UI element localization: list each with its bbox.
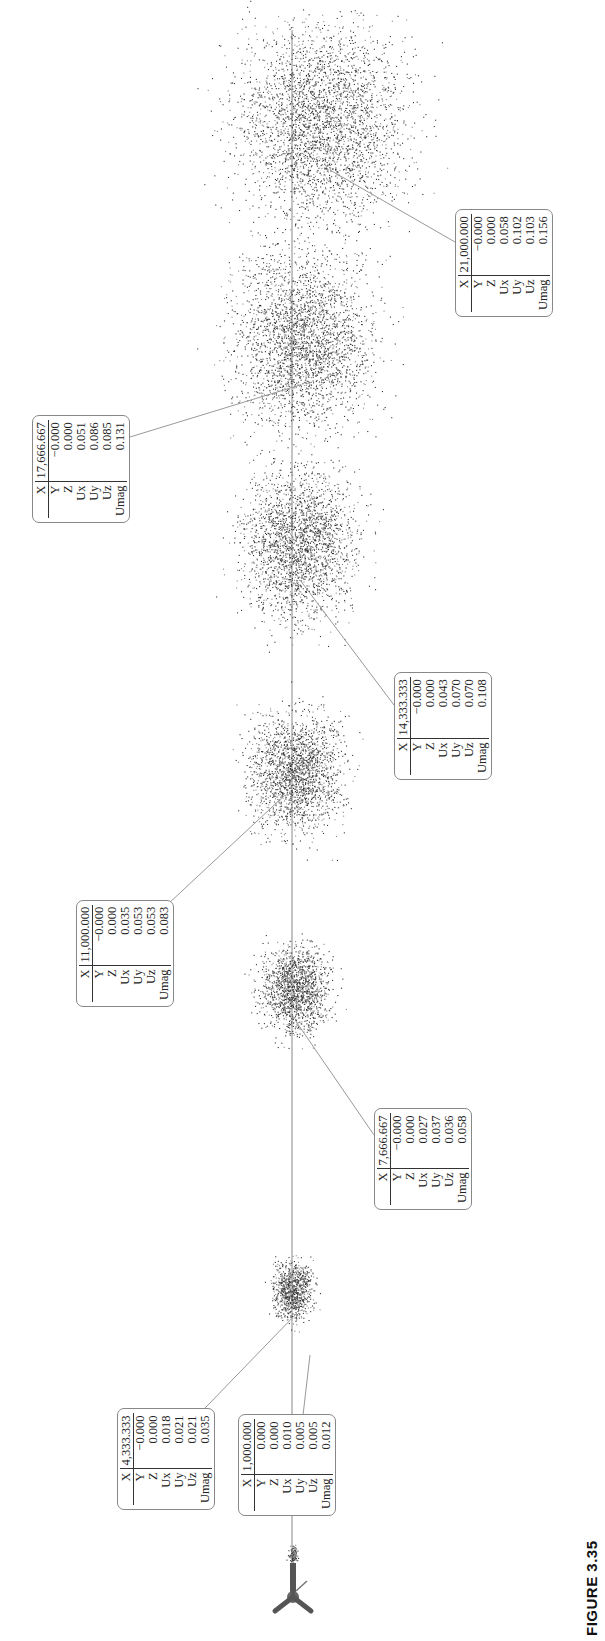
- probe-value: −0.000: [49, 420, 63, 482]
- probe-value: −0.000: [391, 1113, 405, 1169]
- particle-cloud: [265, 1255, 321, 1332]
- probe-label: Y: [255, 1475, 269, 1511]
- probe-value: −0.000: [93, 905, 107, 966]
- probe-label: X: [397, 739, 411, 775]
- probe-value: 17,666.667: [35, 420, 49, 482]
- probe-value: 0.058: [456, 1113, 469, 1169]
- probe-label: Umag: [114, 482, 127, 518]
- probe-label: Umag: [537, 276, 550, 312]
- particle-cloud: [233, 682, 364, 862]
- nozzle-icon: [275, 1563, 311, 1611]
- particle-clouds: [197, 0, 448, 1566]
- probe-value: 0.156: [537, 214, 550, 276]
- probe-label: Y: [134, 1469, 148, 1505]
- probe-value: −0.000: [411, 677, 425, 739]
- probe-value: 0.131: [114, 420, 127, 482]
- probe-label: Y: [49, 482, 63, 518]
- figure-caption: FIGURE 3.35: [583, 1540, 600, 1636]
- leader-line: [295, 1020, 374, 1135]
- probe-label: Y: [411, 739, 425, 775]
- probe-box: X21,000.000Y−0.000Z0.000Ux0.058Uy0.102Uz…: [455, 209, 553, 317]
- probe-value: 21,000.000: [458, 214, 472, 276]
- probe-label: Y: [472, 276, 486, 312]
- probe-label: X: [241, 1475, 255, 1511]
- particle-cloud: [198, 0, 449, 271]
- particle-cloud: [244, 933, 347, 1049]
- probe-value: 0.108: [476, 677, 489, 739]
- probe-label: Y: [93, 966, 107, 1002]
- probe-value: 14,333.333: [397, 677, 411, 739]
- particle-cloud: [197, 208, 404, 474]
- probe-value: −0.000: [134, 1413, 148, 1469]
- particle-cloud: [216, 440, 384, 653]
- probe-box: X7,666.667Y−0.000Z0.000Ux0.027Uy0.037Uz0…: [374, 1108, 472, 1210]
- probe-value: 4,333.333: [120, 1413, 134, 1469]
- probe-box: X14,333.333Y−0.000Z0.000Ux0.043Uy0.070Uz…: [394, 672, 492, 780]
- probe-label: X: [377, 1169, 391, 1205]
- probe-value: 0.083: [158, 905, 171, 966]
- probe-value: 0.035: [199, 1413, 212, 1469]
- probe-box: X17,666.667Y−0.000Z0.000Ux0.051Uy0.086Uz…: [32, 415, 130, 523]
- probe-label: Umag: [158, 966, 171, 1002]
- probe-label: Y: [391, 1169, 405, 1205]
- probe-label: X: [458, 276, 472, 312]
- probe-label: X: [35, 482, 49, 518]
- particle-cloud: [286, 1545, 299, 1566]
- probe-label: Umag: [476, 739, 489, 775]
- probe-box: X11,000.000Y−0.000Z0.000Ux0.035Uy0.053Uz…: [76, 900, 174, 1007]
- probe-box: X4,333.333Y−0.000Z0.000Ux0.018Uy0.021Uz0…: [117, 1408, 215, 1510]
- leader-line: [300, 580, 394, 705]
- probe-value: 7,666.667: [377, 1113, 391, 1169]
- probe-value: 1,000.000: [241, 1419, 255, 1475]
- probe-value: 0.000: [255, 1419, 269, 1475]
- probe-label: Umag: [199, 1469, 212, 1505]
- probe-value: 11,000.000: [79, 905, 93, 966]
- probe-label: X: [79, 966, 93, 1002]
- probe-value: −0.000: [472, 214, 486, 276]
- probe-label: Umag: [320, 1475, 333, 1511]
- leader-line: [330, 170, 455, 242]
- probe-box: X1,000.000Y0.000Z0.000Ux0.010Uy0.005Uz0.…: [238, 1414, 336, 1516]
- probe-label: Umag: [456, 1169, 469, 1205]
- probe-leader-lines: [94, 170, 455, 1441]
- probe-label: X: [120, 1469, 134, 1505]
- probe-value: 0.012: [320, 1419, 333, 1475]
